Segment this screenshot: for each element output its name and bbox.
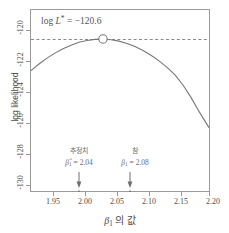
max-label-value: = −120.6 [67, 16, 101, 26]
max-likelihood-label: log L* = −120.6 [41, 14, 101, 26]
x-tick-label: 2.00 [72, 197, 98, 206]
x-tick-label: 2.10 [136, 197, 162, 206]
estimate-heading: 추정치 [48, 145, 110, 155]
y-axis-title: log likelihood [10, 60, 20, 134]
x-axis-title: β1 의 값 [30, 212, 210, 228]
x-axis-title-rest: 의 값 [115, 215, 136, 226]
true-value-heading: 참 [104, 145, 166, 155]
true-value-equation: β1 = 2.08 [104, 158, 166, 167]
estimate-subscript: 1 [69, 161, 72, 167]
x-tick-label: 2.20 [200, 197, 226, 206]
log-likelihood-chart: -120 -122 -124 -126 -128 -130 log likeli… [0, 0, 229, 233]
estimate-value: = 2.04 [74, 158, 93, 167]
max-label-star: * [61, 14, 65, 23]
y-tick-label: -130 [16, 169, 25, 197]
max-label-prefix: log [41, 16, 53, 26]
x-tick-marks [54, 192, 210, 196]
estimate-annotation: 추정치 β̂1 = 2.04 [48, 145, 110, 167]
true-value-subscript: 1 [125, 161, 128, 167]
x-axis-title-subscript: 1 [109, 220, 113, 228]
x-tick-label: 1.95 [40, 197, 66, 206]
y-tick-label: -128 [16, 138, 25, 166]
x-tick-label: 2.15 [168, 197, 194, 206]
true-value-number: = 2.08 [130, 158, 149, 167]
x-tick-label: 2.05 [104, 197, 130, 206]
true-value-annotation: 참 β1 = 2.08 [104, 145, 166, 167]
y-tick-label: -120 [16, 14, 25, 42]
estimate-equation: β̂1 = 2.04 [48, 158, 110, 167]
